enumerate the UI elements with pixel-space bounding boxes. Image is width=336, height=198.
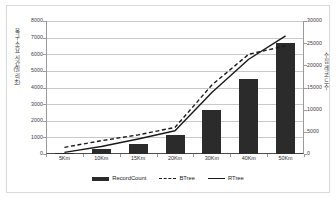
x-axis-tick-mark xyxy=(157,154,158,157)
line-series-layer xyxy=(46,21,304,154)
y-axis-ticks: 010002000300040005000600070008000 xyxy=(22,21,43,154)
dashed-line-swatch-icon xyxy=(159,178,176,179)
y-axis-tick-label: 5000 xyxy=(31,68,43,73)
x-axis-tick-mark xyxy=(230,154,231,157)
secondary-y-axis-tick-mark xyxy=(304,43,307,44)
secondary-y-axis-tick-mark xyxy=(304,65,307,66)
secondary-y-axis-tick-mark xyxy=(304,21,307,22)
x-axis-tick-label: 40Km xyxy=(234,156,264,161)
x-axis-tick-label: 50Km xyxy=(271,156,301,161)
solid-line-swatch-icon xyxy=(208,178,225,179)
secondary-y-axis-tick-label: 10000 xyxy=(307,107,322,112)
y-axis-tick-label: 3000 xyxy=(31,102,43,107)
y-axis-tick-label: 6000 xyxy=(31,52,43,57)
bar-swatch-icon xyxy=(92,177,109,181)
legend-item-btree[interactable]: BTree xyxy=(159,176,195,182)
x-axis-tick-mark xyxy=(120,154,121,157)
secondary-y-axis-tick-label: 20000 xyxy=(307,63,322,68)
secondary-y-axis-tick-mark xyxy=(304,110,307,111)
x-axis-tick-label: 10Km xyxy=(86,156,116,161)
line-series-btree xyxy=(64,46,285,147)
legend-label-rtree: RTree xyxy=(228,176,244,182)
legend-label-recordcount: RecordCount xyxy=(112,176,146,182)
x-axis-tick-mark xyxy=(304,154,305,157)
x-axis-tick-mark xyxy=(267,154,268,157)
secondary-y-axis-tick-mark xyxy=(304,132,307,133)
x-axis-tick-label: 20Km xyxy=(160,156,190,161)
legend-label-btree: BTree xyxy=(179,176,195,182)
x-axis-tick-label: 30Km xyxy=(197,156,227,161)
y-axis-title: 복구 소요 시간 (밀리 초) xyxy=(13,28,21,85)
legend-item-recordcount[interactable]: RecordCount xyxy=(92,176,146,182)
secondary-y-axis-tick-mark xyxy=(304,88,307,89)
y-axis-tick-label: 7000 xyxy=(31,35,43,40)
y-axis-tick-label: 4000 xyxy=(31,85,43,90)
x-axis-tick-mark xyxy=(193,154,194,157)
y-axis-tick-label: 1000 xyxy=(31,135,43,140)
x-axis-tick-mark xyxy=(46,154,47,157)
x-axis-tick-mark xyxy=(83,154,84,157)
secondary-y-axis-tick-label: 5000 xyxy=(307,129,319,134)
y-axis-tick-label: 8000 xyxy=(31,18,43,23)
secondary-y-axis-tick-label: 25000 xyxy=(307,41,322,46)
x-axis-tick-label: 15Km xyxy=(123,156,153,161)
x-axis-tick-label: 5Km xyxy=(49,156,79,161)
x-axis-ticks: 5Km10Km15Km20Km30Km40Km50Km xyxy=(46,156,304,168)
secondary-y-axis-tick-label: 15000 xyxy=(307,85,322,90)
secondary-y-axis-tick-label: 30000 xyxy=(307,18,322,23)
y-axis-tick-label: 2000 xyxy=(31,118,43,123)
secondary-y-axis-ticks: 050001000015000200002500030000 xyxy=(307,21,333,154)
secondary-y-axis-tick-label: 0 xyxy=(307,151,310,156)
chart-legend: RecordCount BTree RTree xyxy=(0,176,336,182)
legend-item-rtree[interactable]: RTree xyxy=(208,176,244,182)
chart-container: 복구 소요 시간 (밀리 초) 수집 레코드 수 010002000300040… xyxy=(0,0,336,198)
